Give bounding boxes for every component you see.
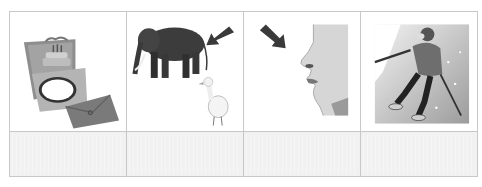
birthday-card-icon	[10, 12, 126, 131]
picture-row	[10, 12, 478, 132]
elephant-duck-icon	[127, 12, 243, 131]
answer-field[interactable]	[129, 134, 241, 174]
answer-field[interactable]	[246, 134, 358, 174]
answer-box-1[interactable]	[10, 132, 127, 177]
picture-cell-1	[10, 12, 127, 132]
answer-box-2[interactable]	[127, 132, 244, 177]
answer-row	[10, 132, 478, 177]
answer-box-3[interactable]	[244, 132, 361, 177]
skier-icon	[361, 12, 477, 131]
picture-cell-2	[127, 12, 244, 132]
picture-cell-3	[244, 12, 361, 132]
face-nose-icon	[244, 12, 360, 131]
answer-box-4[interactable]	[361, 132, 478, 177]
worksheet	[9, 11, 478, 176]
picture-grid	[9, 11, 478, 177]
picture-cell-4	[361, 12, 478, 132]
answer-field[interactable]	[363, 134, 475, 174]
answer-field[interactable]	[12, 134, 124, 174]
